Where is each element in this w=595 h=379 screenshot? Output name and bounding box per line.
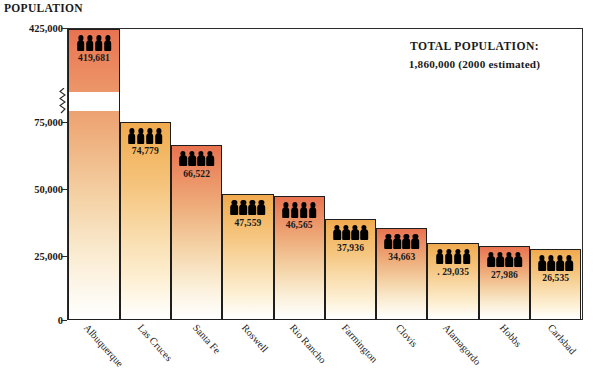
x-label-carlsbad: Carlsbad [546, 322, 578, 356]
x-label-clovis: Clovis [394, 322, 420, 349]
people-pictogram-icon [384, 234, 420, 249]
total-population-value: 1,860,000 (2000 estimated) [372, 56, 577, 73]
y-tick-mark [61, 320, 67, 321]
bar-roswell[interactable]: 47,559 [222, 194, 273, 320]
chart-canvas: POPULATION 425,000 75,000 50,000 25,000 … [0, 0, 595, 379]
bar-carlsbad[interactable]: 26,535 [530, 249, 581, 320]
bar-value-label: 26,535 [531, 272, 580, 283]
x-axis-category-labels: Albuquerque Las Cruces Santa Fe Roswell … [68, 322, 581, 379]
people-pictogram-icon [281, 202, 317, 217]
total-population-heading: TOTAL POPULATION: [372, 38, 577, 56]
people-pictogram-icon [230, 200, 266, 215]
bar-value-label: 74,779 [121, 145, 170, 156]
x-label-las-cruces: Las Cruces [136, 322, 175, 363]
people-pictogram-icon [333, 225, 369, 240]
bar-value-label: 47,559 [223, 217, 272, 228]
bar-santa-fe[interactable]: 66,522 [171, 145, 222, 320]
people-pictogram-icon [435, 249, 471, 264]
axis-break-squiggle-icon [57, 88, 69, 114]
x-label-farmington: Farmington [340, 322, 380, 365]
x-label-rio-rancho: Rio Rancho [288, 322, 329, 365]
bar-clovis[interactable]: 34,663 [376, 228, 427, 320]
x-label-roswell: Roswell [240, 322, 271, 354]
bar-farmington[interactable]: 37,936 [325, 219, 376, 320]
bar-value-label: 37,936 [326, 242, 375, 253]
bar-value-label: 34,663 [377, 251, 426, 262]
bar-value-label: 419,681 [69, 52, 118, 63]
bar-value-label: 27,986 [480, 269, 529, 280]
people-pictogram-icon [127, 128, 163, 143]
bar-alamagordo[interactable]: . 29,035 [427, 243, 478, 320]
y-axis-tick-labels: 425,000 75,000 50,000 25,000 0 [0, 0, 67, 379]
bar-value-label: . 29,035 [428, 266, 477, 277]
x-label-albuquerque: Albuquerque [82, 322, 126, 369]
x-label-hobbs: Hobbs [498, 322, 524, 349]
total-population-annotation: TOTAL POPULATION: 1,860,000 (2000 estima… [372, 38, 577, 73]
bar-rio-rancho[interactable]: 46,565 [274, 196, 325, 320]
bar-las-cruces[interactable]: 74,779 [120, 122, 171, 320]
people-pictogram-icon [76, 35, 112, 50]
bar-albuquerque[interactable]: 419,681 [68, 29, 119, 320]
people-pictogram-icon [179, 151, 215, 166]
axis-break-zigzag-icon [68, 92, 119, 111]
x-label-alamagordo: Alamagordo [441, 322, 483, 367]
people-pictogram-icon [538, 255, 574, 270]
bar-hobbs[interactable]: 27,986 [479, 246, 530, 320]
bar-value-label: 66,522 [172, 168, 221, 179]
bar-value-label: 46,565 [275, 219, 324, 230]
people-pictogram-icon [486, 252, 522, 267]
x-label-santa-fe: Santa Fe [191, 322, 223, 356]
